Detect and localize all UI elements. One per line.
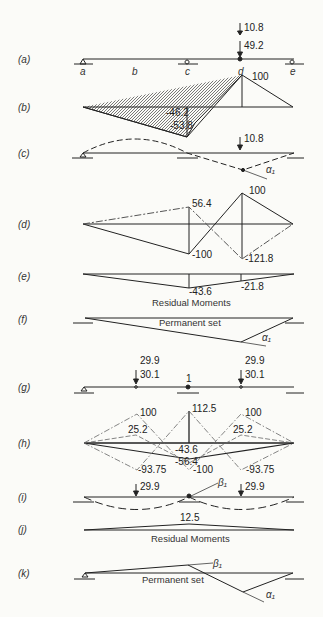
- svg-text:(e): (e): [18, 271, 30, 282]
- svg-text:(h): (h): [18, 438, 30, 449]
- svg-text:c: c: [185, 66, 190, 77]
- panel-tags: (a) (b) (c) (d) (e) (f) (g) (h) (i) (j) …: [18, 54, 30, 579]
- svg-text:α₁: α₁: [262, 332, 271, 343]
- svg-text:100: 100: [245, 407, 262, 418]
- svg-text:(d): (d): [18, 219, 30, 230]
- svg-text:-21.8: -21.8: [241, 281, 264, 292]
- svg-text:49.2: 49.2: [244, 40, 264, 51]
- svg-text:β₁: β₁: [212, 558, 222, 569]
- svg-text:α₁: α₁: [266, 589, 275, 600]
- svg-text:(a): (a): [18, 54, 30, 65]
- svg-text:(j): (j): [18, 524, 27, 535]
- svg-text:-121.8: -121.8: [245, 253, 274, 264]
- panel-d: [83, 193, 293, 259]
- svg-text:(i): (i): [18, 492, 27, 503]
- svg-text:-46.2: -46.2: [166, 107, 189, 118]
- svg-text:29.9: 29.9: [245, 355, 265, 366]
- panel-i: [73, 483, 304, 510]
- svg-text:-53.8: -53.8: [170, 120, 193, 131]
- panel-j: [84, 524, 294, 530]
- svg-text:e: e: [290, 66, 296, 77]
- svg-text:a: a: [80, 66, 86, 77]
- svg-text:-43.6: -43.6: [189, 286, 212, 297]
- svg-text:25.2: 25.2: [128, 424, 148, 435]
- svg-text:(k): (k): [18, 568, 30, 579]
- svg-text:30.1: 30.1: [140, 369, 160, 380]
- svg-text:(c): (c): [18, 148, 30, 159]
- svg-text:10.8: 10.8: [244, 22, 264, 33]
- svg-text:Residual Moments: Residual Moments: [152, 297, 231, 308]
- svg-text:100: 100: [252, 71, 269, 82]
- svg-text:b: b: [132, 66, 138, 77]
- svg-text:(b): (b): [18, 102, 30, 113]
- svg-text:10.8: 10.8: [244, 133, 264, 144]
- svg-text:56.4: 56.4: [192, 198, 212, 209]
- svg-text:25.2: 25.2: [233, 424, 253, 435]
- svg-text:29.9: 29.9: [245, 481, 265, 492]
- svg-text:-100: -100: [193, 464, 213, 475]
- svg-text:-43.6: -43.6: [175, 444, 198, 455]
- svg-text:-93.75: -93.75: [246, 464, 275, 475]
- svg-text:-93.75: -93.75: [138, 464, 167, 475]
- svg-text:-100: -100: [192, 249, 212, 260]
- svg-text:Permanent set: Permanent set: [142, 574, 204, 585]
- svg-text:(f): (f): [18, 314, 27, 325]
- svg-text:Permanent set: Permanent set: [159, 317, 221, 328]
- panel-a: [74, 23, 304, 64]
- beam-analysis-figure: (a) (b) (c) (d) (e) (f) (g) (h) (i) (j) …: [0, 0, 323, 617]
- svg-text:1: 1: [186, 373, 192, 384]
- svg-text:β₁: β₁: [217, 477, 227, 488]
- svg-text:12.5: 12.5: [180, 512, 200, 523]
- svg-text:112.5: 112.5: [192, 403, 217, 414]
- svg-text:29.9: 29.9: [140, 355, 160, 366]
- svg-text:α₁: α₁: [266, 164, 275, 175]
- svg-text:30.1: 30.1: [245, 369, 265, 380]
- svg-text:29.9: 29.9: [140, 481, 160, 492]
- svg-text:(g): (g): [18, 382, 30, 393]
- svg-text:100: 100: [140, 407, 157, 418]
- svg-text:100: 100: [249, 185, 266, 196]
- svg-text:Residual Moments: Residual Moments: [151, 533, 230, 544]
- svg-text:d: d: [238, 66, 244, 77]
